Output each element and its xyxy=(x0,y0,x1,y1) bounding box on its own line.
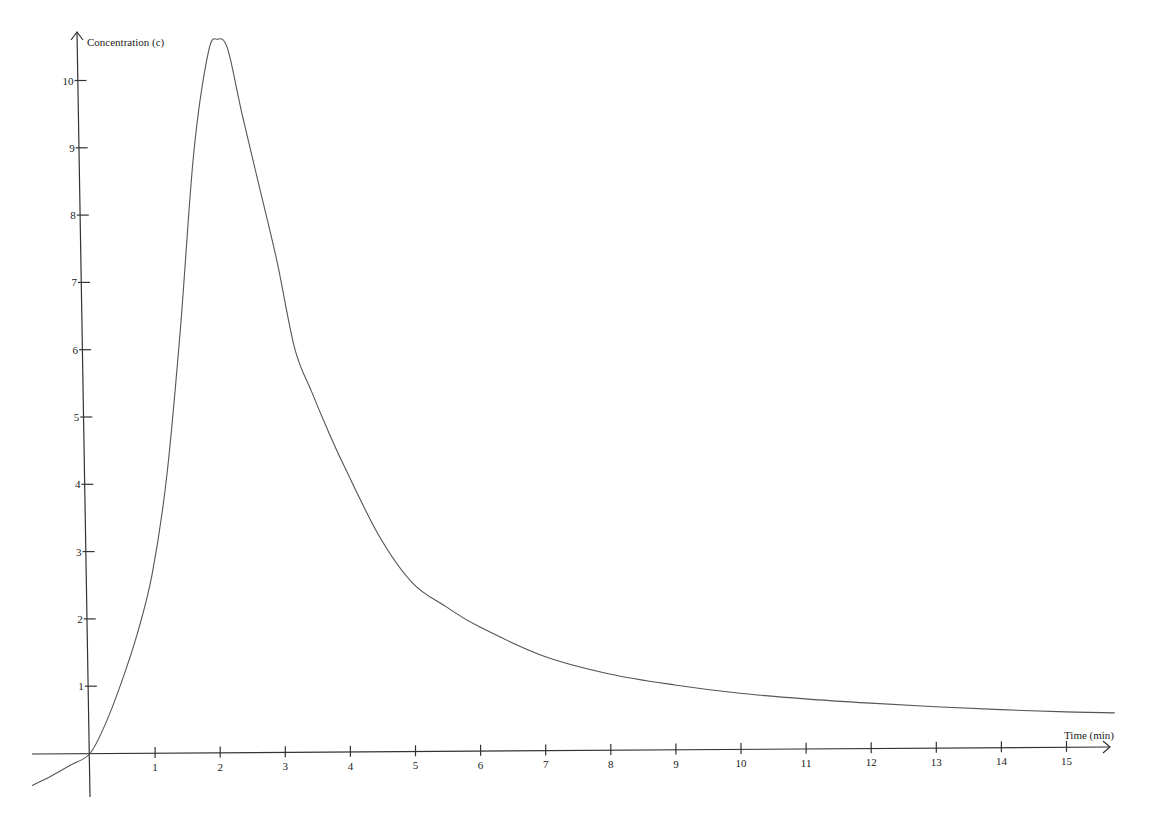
x-tick-label: 5 xyxy=(413,759,419,771)
y-axis-label: Concentration (c) xyxy=(87,36,165,49)
x-tick-label: 9 xyxy=(673,758,679,770)
x-tick-label: 6 xyxy=(478,759,484,771)
concentration-curve xyxy=(32,39,1115,786)
x-tick-label: 8 xyxy=(608,758,614,770)
y-tick-label: 9 xyxy=(69,142,75,154)
x-tick-label: 14 xyxy=(996,755,1008,767)
concentration-time-chart: 123456789101112131415 Time (min) 1234567… xyxy=(0,0,1155,814)
x-ticks: 123456789101112131415 xyxy=(152,741,1072,773)
y-tick-label: 1 xyxy=(78,680,84,692)
y-tick-label: 10 xyxy=(63,75,75,87)
y-tick-label: 5 xyxy=(74,411,80,423)
y-tick-label: 7 xyxy=(71,276,77,288)
x-tick-label: 11 xyxy=(801,757,812,769)
x-tick-label: 3 xyxy=(283,760,289,772)
x-axis-line xyxy=(32,747,1110,754)
x-tick-label: 4 xyxy=(348,760,354,772)
x-tick-label: 13 xyxy=(931,756,943,768)
y-tick-label: 6 xyxy=(73,344,79,356)
x-axis-label: Time (min) xyxy=(1064,729,1114,742)
x-tick-label: 7 xyxy=(543,758,549,770)
y-tick-label: 3 xyxy=(76,546,82,558)
x-tick-label: 2 xyxy=(217,761,223,773)
x-axis: 123456789101112131415 Time (min) xyxy=(32,729,1114,773)
x-tick-label: 10 xyxy=(736,757,748,769)
y-tick-label: 4 xyxy=(75,478,81,490)
x-tick-label: 12 xyxy=(866,756,877,768)
x-tick-label: 1 xyxy=(152,761,158,773)
y-tick-label: 8 xyxy=(70,209,76,221)
y-tick-label: 2 xyxy=(77,613,83,625)
y-axis: 12345678910 Concentration (c) xyxy=(63,32,165,797)
x-tick-label: 15 xyxy=(1061,755,1073,767)
